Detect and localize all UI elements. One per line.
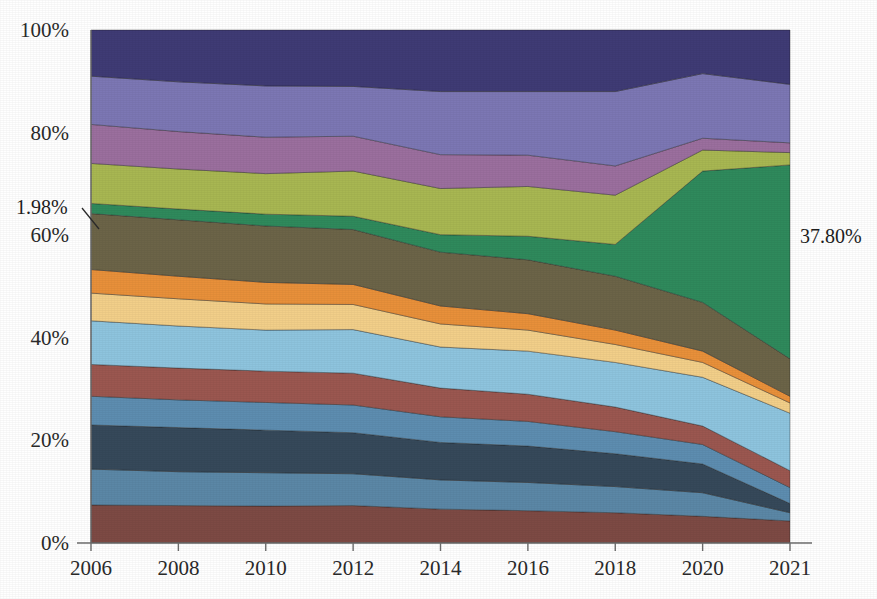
x-axis-tick-label: 2010 xyxy=(245,556,287,580)
x-axis-ticks-group: 200620082010201220142016201820202021 xyxy=(70,543,811,580)
area-bands-group xyxy=(91,30,790,543)
y-axis-ticks-group: 0%20%40%60%80%100% xyxy=(20,18,69,555)
chart-canvas: 0%20%40%60%80%100% 200620082010201220142… xyxy=(0,0,877,599)
y-axis-tick-label: 0% xyxy=(41,531,69,555)
annotation-left-label: 1.98% xyxy=(16,196,68,218)
x-axis-tick-label: 2008 xyxy=(157,556,199,580)
y-axis-tick-label: 80% xyxy=(31,121,70,145)
x-axis-tick-label: 2018 xyxy=(594,556,636,580)
y-axis-tick-label: 60% xyxy=(31,223,70,247)
x-axis-tick-label: 2012 xyxy=(332,556,374,580)
annotation-right-label: 37.80% xyxy=(800,225,862,247)
y-axis-tick-label: 100% xyxy=(20,18,69,42)
y-axis-tick-label: 40% xyxy=(31,326,70,350)
y-axis-tick-label: 20% xyxy=(31,428,70,452)
x-axis-tick-label: 2014 xyxy=(420,556,463,580)
x-axis-tick-label: 2020 xyxy=(682,556,724,580)
stacked-area-chart: 0%20%40%60%80%100% 200620082010201220142… xyxy=(0,0,877,599)
x-axis-tick-label: 2021 xyxy=(769,556,811,580)
x-axis-tick-label: 2006 xyxy=(70,556,112,580)
x-axis-tick-label: 2016 xyxy=(507,556,549,580)
